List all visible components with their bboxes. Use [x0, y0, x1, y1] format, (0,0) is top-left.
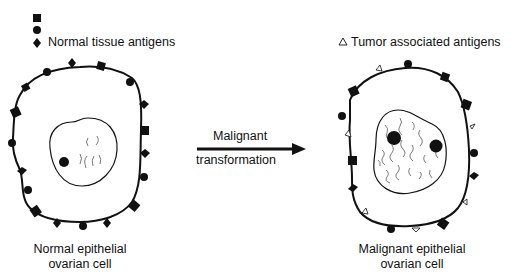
square-antigen-icon — [33, 14, 41, 22]
normal-cell — [8, 58, 150, 230]
legend-normal-label: Normal tissue antigens — [48, 35, 175, 50]
malignant-cell-caption: Malignant epithelial ovarian cell — [347, 242, 477, 272]
triangle-antigen-icon — [339, 38, 347, 45]
normal-cell-caption: Normal epithelial ovarian cell — [20, 242, 140, 272]
malignant-cell — [338, 60, 479, 233]
normal-cell-caption-line2: ovarian cell — [20, 257, 140, 272]
legend-tumor-label: Tumor associated antigens — [351, 35, 501, 50]
normal-cell-caption-line1: Normal epithelial — [20, 242, 140, 257]
normal-nucleolus — [59, 157, 69, 167]
malignant-cell-caption-line2: ovarian cell — [347, 257, 477, 272]
transition-label-top: Malignant — [205, 129, 303, 144]
malignant-nucleolus-1 — [387, 131, 401, 145]
malignant-nucleolus-2 — [430, 140, 443, 153]
diamond-antigen-icon — [33, 38, 41, 48]
transition-label-bottom: transformation — [196, 153, 306, 168]
circle-antigen-icon — [33, 26, 41, 34]
legend-normal-symbols — [33, 14, 41, 48]
malignant-cell-caption-line1: Malignant epithelial — [347, 242, 477, 257]
